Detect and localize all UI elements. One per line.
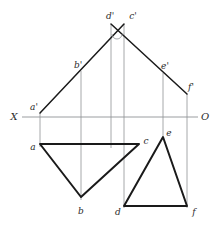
drawing-svg — [0, 0, 222, 232]
front-edge-cp-fp — [111, 24, 187, 94]
vertex-label-fp: f' — [188, 83, 194, 92]
top-view-triangle-group — [40, 137, 187, 206]
vertex-label-c: c — [143, 137, 148, 146]
projection-line-group — [40, 24, 187, 208]
vertex-label-X: X — [10, 112, 17, 122]
vertex-label-O: O — [201, 112, 209, 122]
vertex-label-d: d — [115, 208, 121, 217]
vertex-label-e: e — [166, 129, 171, 138]
projection-drawing-canvas: XOa'b'd'c'e'f'acebdf — [0, 0, 222, 232]
vertex-label-ep: e' — [161, 62, 169, 71]
vertex-label-a: a — [30, 143, 35, 152]
vertex-label-ap: a' — [30, 103, 38, 112]
vertex-label-bp: b' — [74, 61, 82, 70]
triangle-def — [124, 137, 187, 206]
vertex-label-cp: c' — [129, 12, 137, 21]
vertex-label-dp: d' — [106, 12, 114, 21]
vertex-label-b: b — [78, 207, 84, 216]
vertex-label-f: f — [192, 208, 195, 217]
